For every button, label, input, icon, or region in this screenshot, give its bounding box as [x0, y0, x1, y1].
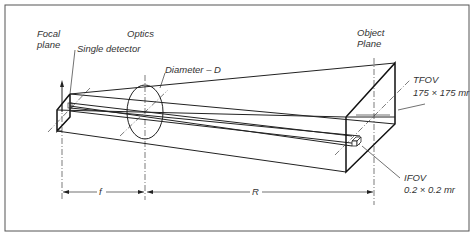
figure-border [5, 5, 469, 231]
ifov-label: IFOV [404, 172, 428, 183]
focal-plane-arrowhead [60, 80, 64, 87]
object-plane-label-line2: Plane [357, 38, 381, 49]
diameter-label: Diameter – D [165, 64, 221, 75]
tfov-label: TFOV [413, 74, 440, 85]
optics-label: Optics [127, 28, 154, 39]
focal-length-label: f [99, 186, 103, 197]
focal-plane-label-line2: plane [36, 39, 60, 50]
ray-bundle [57, 63, 395, 172]
single-detector-leader [70, 50, 75, 94]
focal-plane-label-line1: Focal [37, 28, 61, 39]
optics-diagram: Focal plane Optics Single detector Diame… [0, 0, 474, 235]
object-box [346, 63, 395, 172]
single-detector-label: Single detector [77, 43, 141, 54]
focal-length-dimension [63, 190, 144, 194]
tfov-value: 175 × 175 mr [413, 87, 470, 98]
tfov-leader [398, 104, 425, 110]
ifov-pixel [352, 137, 361, 146]
range-label: R [252, 186, 259, 197]
object-plane-label-line1: Object [357, 27, 385, 38]
detector-box [57, 94, 72, 131]
range-dimension [147, 190, 373, 194]
ifov-value: 0.2 × 0.2 mr [404, 184, 456, 195]
ifov-leader [362, 146, 400, 178]
